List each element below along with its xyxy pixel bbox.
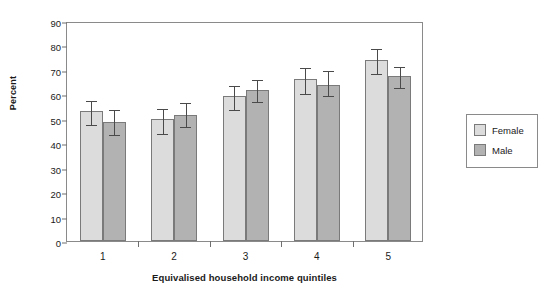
error-bar-cap-lower xyxy=(157,134,168,135)
legend-swatch-icon xyxy=(474,124,486,136)
y-tick-mark xyxy=(62,169,67,170)
chart-figure: 0102030405060708090 12345 Percent Equiva… xyxy=(0,0,559,295)
y-tick-mark xyxy=(62,96,67,97)
error-bar-line xyxy=(163,109,164,134)
bar-female-q5 xyxy=(365,60,388,241)
x-tick-mark xyxy=(281,241,282,247)
error-bar-cap-lower xyxy=(109,135,120,136)
legend-swatch-icon xyxy=(474,144,486,156)
error-bar-cap-upper xyxy=(394,67,405,68)
x-tick-mark xyxy=(138,241,139,247)
y-tick-label: 10 xyxy=(50,213,61,224)
legend-item-female[interactable]: Female xyxy=(474,124,524,136)
error-bar-cap-upper xyxy=(109,110,120,111)
x-axis-title: Equivalised household income quintiles xyxy=(66,272,423,283)
x-tick-label: 1 xyxy=(100,251,106,262)
bar-male-q3 xyxy=(246,90,269,241)
bar-female-q2 xyxy=(151,119,174,241)
y-tick-label: 0 xyxy=(56,238,61,249)
bar-male-q5 xyxy=(388,76,411,241)
x-tick-label: 3 xyxy=(243,251,249,262)
error-bar-cap-upper xyxy=(323,71,334,72)
error-bar-cap-lower xyxy=(180,127,191,128)
error-bar-line xyxy=(400,67,401,88)
bar-female-q3 xyxy=(223,96,246,241)
bar-male-q4 xyxy=(317,85,340,241)
x-tick-label: 2 xyxy=(171,251,177,262)
y-tick-mark xyxy=(62,47,67,48)
y-tick-label: 50 xyxy=(50,115,61,126)
y-tick-label: 30 xyxy=(50,164,61,175)
y-tick-label: 80 xyxy=(50,42,61,53)
error-bar-cap-upper xyxy=(157,109,168,110)
plot-area: 0102030405060708090 12345 xyxy=(66,22,423,242)
y-tick-mark xyxy=(62,243,67,244)
error-bar-cap-lower xyxy=(394,88,405,89)
error-bar-cap-upper xyxy=(371,49,382,50)
error-bar-line xyxy=(328,71,329,96)
x-tick-label: 5 xyxy=(386,251,392,262)
legend-label: Female xyxy=(492,125,524,136)
error-bar-line xyxy=(91,101,92,125)
error-bar-cap-upper xyxy=(252,80,263,81)
y-tick-label: 20 xyxy=(50,189,61,200)
error-bar-cap-lower xyxy=(86,125,97,126)
y-tick-mark xyxy=(62,23,67,24)
y-tick-label: 40 xyxy=(50,140,61,151)
bar-male-q1 xyxy=(103,122,126,241)
legend-box: FemaleMale xyxy=(466,114,538,168)
bar-female-q4 xyxy=(294,79,317,241)
x-tick-mark xyxy=(353,241,354,247)
y-tick-mark xyxy=(62,218,67,219)
error-bar-cap-upper xyxy=(300,68,311,69)
error-bar-cap-lower xyxy=(323,96,334,97)
error-bar-line xyxy=(257,80,258,102)
bar-male-q2 xyxy=(174,115,197,241)
error-bar-cap-lower xyxy=(252,102,263,103)
error-bar-cap-upper xyxy=(86,101,97,102)
error-bar-line xyxy=(186,103,187,127)
error-bar-line xyxy=(305,68,306,94)
y-tick-label: 70 xyxy=(50,66,61,77)
error-bar-cap-lower xyxy=(229,110,240,111)
y-tick-label: 60 xyxy=(50,91,61,102)
error-bar-line xyxy=(377,49,378,74)
legend-item-male[interactable]: Male xyxy=(474,144,513,156)
bar-female-q1 xyxy=(80,111,103,241)
y-tick-mark xyxy=(62,145,67,146)
y-tick-mark xyxy=(62,71,67,72)
legend-label: Male xyxy=(492,145,513,156)
error-bar-line xyxy=(114,110,115,135)
y-tick-mark xyxy=(62,194,67,195)
x-tick-label: 4 xyxy=(314,251,320,262)
error-bar-cap-upper xyxy=(180,103,191,104)
x-tick-mark xyxy=(210,241,211,247)
y-axis-title: Percent xyxy=(8,48,18,138)
y-tick-mark xyxy=(62,120,67,121)
error-bar-cap-lower xyxy=(300,94,311,95)
y-tick-label: 90 xyxy=(50,18,61,29)
error-bar-cap-upper xyxy=(229,86,240,87)
error-bar-line xyxy=(234,86,235,110)
error-bar-cap-lower xyxy=(371,74,382,75)
